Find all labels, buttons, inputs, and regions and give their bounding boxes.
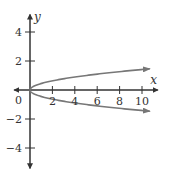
x-tick-label: 10 <box>135 95 149 108</box>
axes <box>14 15 157 169</box>
parabola-graph: 24681042−2−40xy <box>0 0 170 172</box>
x-axis-label: x <box>150 73 157 87</box>
y-tick-label: −4 <box>6 142 22 155</box>
origin-label: 0 <box>15 94 22 107</box>
y-tick-label: 4 <box>15 26 22 39</box>
y-tick-label: −2 <box>6 113 22 126</box>
y-axis-label: y <box>33 10 41 24</box>
upper-branch-curve <box>30 69 150 90</box>
y-tick-label: 2 <box>15 55 22 68</box>
x-tick-label: 4 <box>71 95 78 108</box>
x-tick-label: 2 <box>49 95 56 108</box>
axis-labels: 24681042−2−40xy <box>6 10 158 155</box>
x-tick-label: 6 <box>94 95 101 108</box>
x-tick-label: 8 <box>116 95 123 108</box>
